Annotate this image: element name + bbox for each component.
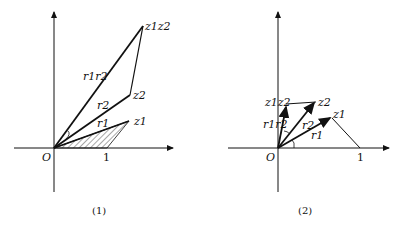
fig2-label-r1r2: r1r2 (263, 118, 288, 131)
fig1-label-r1: r1 (97, 117, 109, 130)
fig2-origin-label: O (266, 151, 275, 164)
diagram-canvas: z1z2 z2 z1 r1r2 r2 r1 O 1 (1) z1 z2 z1z2… (0, 0, 398, 227)
fig2-angle-arc-2 (284, 131, 290, 134)
fig1-label-z2: z2 (132, 89, 146, 102)
fig1-label-r1r2: r1r2 (83, 70, 108, 83)
fig1-label-r2: r2 (97, 99, 109, 112)
figure-2: z1 z2 z1z2 r1r2 r2 r1 O 1 (2) (228, 12, 389, 216)
fig2-angle-arc-1 (292, 140, 294, 148)
fig2-caption: (2) (298, 205, 312, 216)
figure-1: z1z2 z2 z1 r1r2 r2 r1 O 1 (1) (14, 12, 173, 216)
fig2-unit-label: 1 (357, 151, 364, 164)
fig1-label-z1z2: z1z2 (144, 20, 171, 33)
fig2-label-r1: r1 (311, 129, 323, 142)
fig1-unit-label: 1 (103, 151, 110, 164)
fig1-caption: (1) (92, 205, 106, 216)
fig1-label-z1: z1 (133, 115, 147, 128)
fig2-side-z1-1 (332, 118, 360, 148)
fig2-label-z1: z1 (332, 108, 346, 121)
fig1-origin-label: O (42, 151, 51, 164)
fig2-label-z1z2: z1z2 (264, 96, 291, 109)
fig2-label-z2: z2 (317, 96, 331, 109)
